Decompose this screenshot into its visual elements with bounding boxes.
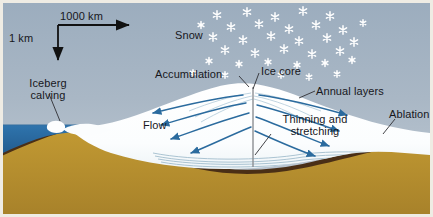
label-accumulation: Accumulation [155,68,222,80]
diagram-canvas [3,3,430,214]
label-snow: Snow [175,29,203,41]
label-thinning-and-stretching: Thinning and stretching [272,113,358,137]
label-annual-layers: Annual layers [316,85,384,97]
ice-sheet-diagram: 1000 km 1 km Snow Accumulation Ice core … [0,0,433,217]
label-flow: Flow [143,119,167,131]
iceberg [47,121,65,133]
label-ice-core: Ice core [261,65,301,77]
scale-vertical-label: 1 km [9,32,33,44]
diagram-scene: 1000 km 1 km Snow Accumulation Ice core … [3,3,430,214]
label-ablation: Ablation [389,108,430,120]
label-iceberg-calving: Iceberg calving [21,77,75,101]
scale-horizontal-label: 1000 km [60,10,103,22]
